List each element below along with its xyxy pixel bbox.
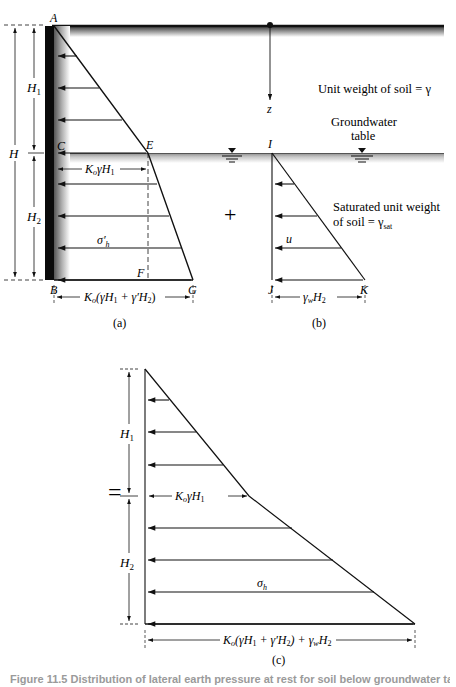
label-gamma-w-h2: γwH2 (303, 290, 326, 305)
label-base-width-c: Ko(γH1 + γ′H2) + γwH2 (222, 633, 331, 648)
label-groundwater-table: table (351, 129, 376, 143)
figure-caption: Figure 11.5 Distribution of lateral eart… (10, 673, 450, 687)
ground-surface (52, 25, 444, 37)
plus-sign: + (224, 202, 236, 227)
panel-label-c: (c) (272, 653, 285, 667)
panel-a-pressure-diagram (54, 26, 193, 305)
label-sigma-h-prime: σ′h (97, 233, 110, 249)
point-K: K (359, 283, 369, 297)
groundwater-table-line (52, 153, 444, 163)
label-unit-weight: Unit weight of soil = γ (318, 82, 431, 96)
label-saturated-line2: of soil = γsat (333, 215, 393, 231)
point-C: C (57, 139, 66, 153)
point-A: A (49, 11, 58, 25)
panel-b-pore-pressure-diagram (272, 153, 365, 305)
label-saturated-line1: Saturated unit weight (333, 200, 440, 214)
panel-c-dimensions (120, 369, 138, 624)
point-J: J (268, 283, 274, 297)
label-sigma-h: σh (257, 576, 267, 592)
panel-label-a: (a) (113, 316, 126, 330)
point-I: I (267, 137, 273, 151)
point-G: G (188, 283, 197, 297)
label-ko-gamma-h1-a: KoγH1 (84, 162, 114, 177)
label-ko-gamma-h1-c: KoγH1 (174, 489, 204, 504)
panel-label-b: (b) (312, 316, 326, 330)
label-base-width-a: Ko(γH1 + γ′H2) (83, 290, 156, 305)
equals-sign: = (108, 479, 122, 505)
label-z: z (266, 102, 272, 116)
point-E: E (145, 138, 154, 152)
point-B: B (50, 283, 58, 297)
label-u: u (286, 232, 292, 246)
point-F: F (136, 266, 145, 280)
panel-c-pressure-diagram (145, 369, 415, 648)
label-H: H (8, 146, 19, 161)
label-groundwater: Groundwater (331, 115, 398, 129)
